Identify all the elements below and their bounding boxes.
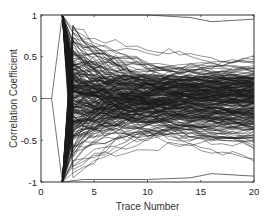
x-tick-label: 5 [92,186,97,197]
y-axis-label: Correlation Coefficient [8,49,19,148]
y-tick-label: -1 [29,177,37,188]
y-tick-label: 0 [32,93,37,104]
x-tick-label: 0 [38,186,43,197]
x-tick-label: 20 [249,186,260,197]
correlation-chart: 05101520 10.50-0.5-1 Trace Number Correl… [0,0,267,220]
x-axis-label: Trace Number [116,201,180,212]
x-tick-label: 10 [142,186,153,197]
y-tick-label: 1 [32,10,37,21]
y-tick-label: 0.5 [24,51,37,62]
y-tick-label: -0.5 [21,135,37,146]
x-tick-label: 15 [195,186,206,197]
